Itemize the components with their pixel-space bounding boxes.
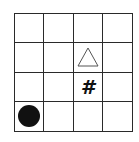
triangle-icon xyxy=(77,47,99,67)
cell-r1-c1[interactable] xyxy=(44,43,73,72)
cell-r3-c3[interactable] xyxy=(103,102,132,131)
cell-r3-c0[interactable] xyxy=(15,102,44,131)
cell-r3-c1[interactable] xyxy=(44,102,73,131)
circle-piece-icon xyxy=(18,105,40,127)
cell-r1-c0[interactable] xyxy=(15,43,44,72)
cell-r0-c2[interactable] xyxy=(74,14,103,43)
cell-r2-c3[interactable] xyxy=(103,73,132,102)
cell-r3-c2[interactable] xyxy=(74,102,103,131)
cell-r2-c1[interactable] xyxy=(44,73,73,102)
cell-r1-c2[interactable] xyxy=(74,43,103,72)
hash-icon: # xyxy=(81,77,95,97)
cell-r2-c0[interactable] xyxy=(15,73,44,102)
game-board: # xyxy=(14,13,133,132)
cell-r0-c0[interactable] xyxy=(15,14,44,43)
cell-r1-c3[interactable] xyxy=(103,43,132,72)
cell-r0-c3[interactable] xyxy=(103,14,132,43)
cell-r2-c2[interactable]: # xyxy=(74,73,103,102)
cell-r0-c1[interactable] xyxy=(44,14,73,43)
